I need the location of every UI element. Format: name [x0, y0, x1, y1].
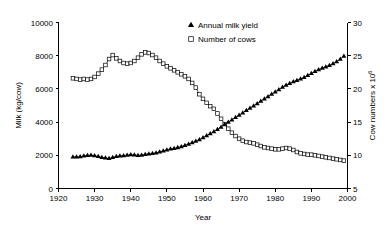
data-point-marker [259, 144, 263, 148]
data-point-marker [335, 157, 339, 161]
data-point-marker [122, 61, 126, 65]
data-point-marker [255, 143, 259, 147]
data-point-marker [111, 53, 115, 57]
y2-axis-label-exponent: 6 [367, 71, 373, 74]
data-point-marker [226, 127, 230, 131]
x-axis-tick-label: 1970 [230, 194, 248, 203]
y-axis-label: Milk (kg/cow) [14, 82, 23, 129]
data-point-marker [201, 97, 205, 101]
data-point-marker [266, 146, 270, 150]
data-point-marker [302, 152, 306, 156]
data-point-marker [151, 53, 155, 57]
data-point-marker [136, 56, 140, 60]
data-point-marker [288, 147, 292, 151]
data-point-marker [172, 69, 176, 73]
x-axis-tick-label: 1980 [266, 194, 284, 203]
data-point-marker [342, 159, 346, 163]
data-point-marker [158, 59, 162, 63]
milk-yield-cow-numbers-chart: 0200040006000800010000 51015202530 19201… [0, 0, 392, 228]
data-point-marker [241, 139, 245, 143]
x-axis-tick-label: 2000 [339, 194, 357, 203]
data-point-marker [248, 141, 252, 145]
data-point-marker [263, 146, 267, 150]
x-axis-tick-label: 1950 [158, 194, 176, 203]
left-axis-tick-label: 10000 [31, 19, 54, 28]
data-point-marker [198, 92, 202, 96]
data-point-marker [270, 147, 274, 151]
data-point-marker [281, 147, 285, 151]
data-point-marker [125, 62, 129, 66]
data-point-marker [154, 56, 158, 60]
x-axis-tick-label: 1990 [302, 194, 320, 203]
left-axis-tick-label: 8000 [35, 52, 53, 61]
data-point-marker [140, 53, 144, 57]
x-axis-tick-label: 1930 [86, 194, 104, 203]
data-point-marker [237, 137, 241, 141]
data-point-marker [234, 134, 238, 138]
data-point-marker [194, 86, 198, 90]
data-point-marker [133, 59, 137, 63]
data-point-marker [89, 77, 93, 81]
data-point-marker [169, 67, 173, 71]
data-point-marker [284, 146, 288, 150]
data-point-marker [104, 63, 108, 67]
data-point-marker [161, 62, 165, 66]
data-point-marker [216, 112, 220, 116]
data-point-marker [292, 148, 296, 152]
data-point-marker [212, 107, 216, 111]
y2-axis-label: Cow numbers x 106 [367, 71, 377, 141]
data-point-marker [96, 72, 100, 76]
x-axis-label: Year [195, 213, 212, 222]
right-axis-tick-label: 30 [353, 19, 362, 28]
data-point-marker [306, 153, 310, 157]
data-point-marker [310, 153, 314, 157]
data-point-marker [299, 152, 303, 156]
data-point-marker [187, 77, 191, 81]
data-point-marker [338, 158, 342, 162]
data-point-marker [190, 81, 194, 85]
data-point-marker [205, 101, 209, 105]
data-point-marker [317, 154, 321, 158]
data-point-marker [82, 77, 86, 81]
data-point-marker [165, 65, 169, 69]
left-axis-tick-label: 0 [49, 185, 54, 194]
right-axis-tick-label: 10 [353, 151, 362, 160]
right-axis-tick-label: 15 [353, 118, 362, 127]
y2-axis-label-text: Cow numbers x 10 [368, 73, 377, 140]
x-axis-tick-label: 1940 [122, 194, 140, 203]
data-point-marker [143, 51, 147, 55]
right-axis-tick-label: 25 [353, 52, 362, 61]
svg-text:Cow numbers x 106: Cow numbers x 106 [367, 71, 377, 141]
data-point-marker [273, 148, 277, 152]
data-point-marker [147, 51, 151, 55]
x-axis-tick-label: 1920 [50, 194, 68, 203]
data-point-marker [230, 131, 234, 135]
legend-label: Annual milk yield [198, 21, 258, 30]
left-axis-tick-label: 6000 [35, 85, 53, 94]
data-point-marker [208, 104, 212, 108]
data-point-marker [320, 155, 324, 159]
data-point-marker [93, 75, 97, 79]
data-point-marker [107, 57, 111, 61]
data-point-marker [180, 72, 184, 76]
data-point-marker [219, 117, 223, 121]
x-axis-tick-label: 1960 [194, 194, 212, 203]
data-point-marker [183, 74, 187, 78]
data-point-marker [252, 142, 256, 146]
right-axis-tick-label: 20 [353, 85, 362, 94]
data-point-marker [129, 61, 133, 65]
data-point-marker [118, 59, 122, 63]
data-point-marker [324, 155, 328, 159]
data-point-marker [328, 156, 332, 160]
legend-marker-open-square [189, 37, 194, 42]
data-point-marker [100, 68, 104, 72]
data-point-marker [295, 150, 299, 154]
data-point-marker [86, 78, 90, 82]
left-axis-tick-label: 2000 [35, 151, 53, 160]
data-point-marker [277, 148, 281, 152]
left-axis-tick-label: 4000 [35, 118, 53, 127]
data-point-marker [78, 78, 82, 82]
chart-figure: 0200040006000800010000 51015202530 19201… [0, 0, 392, 228]
data-point-marker [75, 77, 79, 81]
data-point-marker [115, 57, 119, 61]
